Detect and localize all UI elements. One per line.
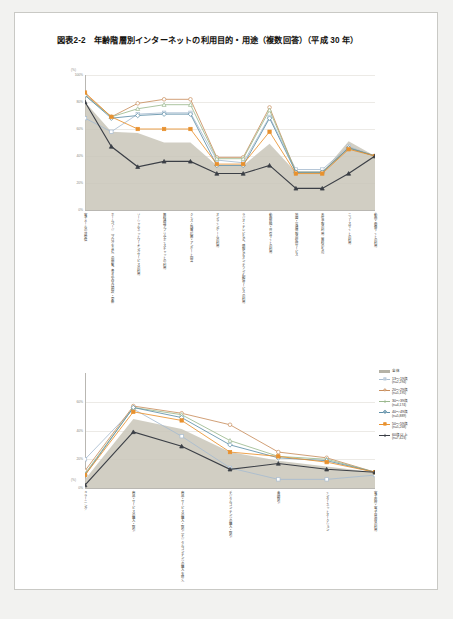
x-axis-tick-label: クイズ・懸賞応募・アンケート回答	[189, 213, 192, 263]
chart-2-internet-transactions: (%) 0%20%40%60%e ラーニング商品・サービスの購入・取引商品・サー…	[85, 373, 375, 488]
x-axis-tick-label: デジタルコンテンツの購入・取引	[228, 491, 231, 538]
legend-sample-size: (n=5,195)	[392, 392, 408, 396]
legend-swatch-icon	[379, 388, 390, 393]
x-axis-tick-label: 天気予報の利用（無料のもの）	[321, 213, 324, 256]
x-axis-tick-label: ラジオ・テレビなど、情報などオンデマンド配信サービスの利用	[242, 213, 245, 303]
legend-label: 13〜19歳(n=2,294)	[392, 377, 408, 385]
x-axis-tick-label: ソーシャルネットワーキングサービスの利用	[136, 213, 139, 275]
area-series-overall	[85, 102, 375, 210]
legend-item[interactable]: 13〜19歳(n=2,294)	[379, 377, 437, 385]
y-axis-tick-label: 40%	[77, 429, 84, 433]
legend-sample-size: (n=5,268)	[392, 426, 408, 430]
x-axis-tick-label: 無料通話アプリやボイスチャットの利用	[162, 213, 165, 269]
x-axis-tick-label: 動画投稿・共有サイトの利用	[268, 213, 271, 253]
x-axis-tick-label: オンラインゲームの利用	[215, 213, 218, 247]
chart-series-svg	[85, 373, 375, 489]
legend-swatch-icon	[379, 422, 390, 427]
y-axis-tick-label: 60%	[77, 400, 84, 404]
legend-sample-size: (n=4,174)	[392, 404, 408, 408]
legend-swatch-icon	[379, 377, 390, 382]
legend-sample-size: (n=5,889)	[392, 415, 408, 419]
y-axis-tick-label: 0%	[78, 208, 83, 212]
chart-2-plot-area: 0%20%40%60%e ラーニング商品・サービスの購入・取引商品・サービスの購…	[85, 373, 375, 488]
x-axis-tick-label: ホームページ（ブログを含む）の閲覧、書き込み又は開設・更新	[110, 213, 113, 303]
chart-1-plot-area: 0%20%40%60%80%100%電子メールの送受信ホームページ（ブログを含む…	[85, 75, 375, 210]
legend-sample-size: (n=7,423)	[392, 437, 408, 441]
legend-item[interactable]: 30〜39歳(n=4,174)	[379, 399, 437, 407]
chart-series-svg	[85, 75, 375, 211]
chart-2-unit: (%)	[71, 478, 76, 482]
legend-label: 60歳以上(n=7,423)	[392, 433, 408, 441]
legend-label: 30〜39歳(n=4,174)	[392, 399, 408, 407]
legend-swatch-icon	[379, 410, 390, 415]
chart-1-internet-usage-purposes: (%) 0%20%40%60%80%100%電子メールの送受信ホームページ（ブロ…	[85, 75, 375, 210]
chart-legend: 全体13〜19歳(n=2,294)20〜29歳(n=5,195)30〜39歳(n…	[379, 369, 437, 444]
x-axis-tick-label: インターネットオークション	[325, 491, 328, 531]
x-axis-tick-label: 商品・サービスの購入・取引（デジタルコンテンツの購入を除く）	[180, 491, 183, 584]
y-axis-tick-label: 40%	[77, 154, 84, 158]
y-axis-tick-label: 60%	[77, 127, 84, 131]
x-axis-tick-label: ニュースサイトの利用	[347, 213, 350, 244]
document-page: 図表2-2 年齢階層別インターネットの利用目的・用途（複数回答）（平成 30 年…	[14, 12, 438, 590]
x-axis-tick-label: 金融取引	[277, 491, 280, 503]
legend-label: 40〜49歳(n=5,889)	[392, 410, 408, 418]
x-axis-tick-label: 電子政府・電子自治体の利用	[373, 491, 376, 531]
chart-1-unit: (%)	[71, 68, 76, 72]
x-axis-tick-label: e ラーニング	[83, 491, 86, 510]
legend-item[interactable]: 60歳以上(n=7,423)	[379, 433, 437, 441]
x-axis-tick-label: 地図・交通情報の提供サービス	[294, 213, 297, 256]
legend-swatch-icon	[379, 433, 390, 438]
legend-label: 20〜29歳(n=5,195)	[392, 388, 408, 396]
legend-swatch-icon	[379, 369, 390, 374]
y-axis-tick-label: 0%	[78, 486, 83, 490]
legend-item[interactable]: 40〜49歳(n=5,889)	[379, 410, 437, 418]
legend-sample-size: (n=2,294)	[392, 381, 408, 385]
x-axis-tick-label: 商品・サービスの購入・取引	[132, 491, 135, 531]
legend-label: 全体	[392, 369, 400, 373]
legend-item[interactable]: 全体	[379, 369, 437, 374]
legend-item[interactable]: 50〜59歳(n=5,268)	[379, 422, 437, 430]
y-axis-tick-label: 80%	[77, 100, 84, 104]
legend-label: 50〜59歳(n=5,268)	[392, 422, 408, 430]
x-axis-tick-label: 電子メールの送受信	[83, 213, 86, 241]
legend-item[interactable]: 20〜29歳(n=5,195)	[379, 388, 437, 396]
x-axis-tick-label: 動画・画像サイトの利用	[373, 213, 376, 247]
y-axis-tick-label: 100%	[75, 73, 83, 77]
y-axis-tick-label: 20%	[77, 181, 84, 185]
y-axis-tick-label: 20%	[77, 457, 84, 461]
page-title: 図表2-2 年齢階層別インターネットの利用目的・用途（複数回答）（平成 30 年…	[57, 33, 359, 45]
legend-swatch-icon	[379, 399, 390, 404]
